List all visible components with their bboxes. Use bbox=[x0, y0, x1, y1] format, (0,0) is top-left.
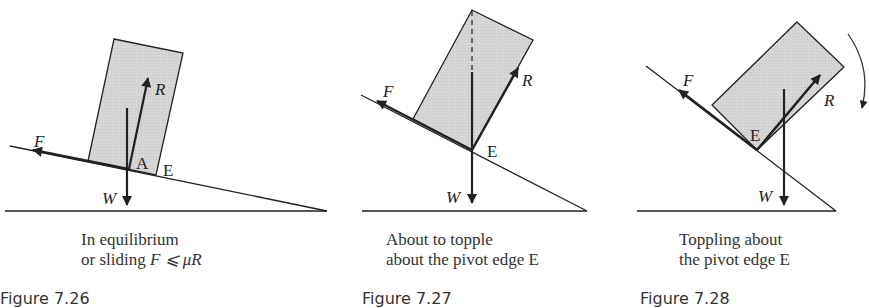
figure-number-7-28: Figure 7.28 bbox=[640, 289, 730, 308]
caption-line-2: or sliding F ⩽ μR bbox=[81, 250, 202, 270]
label-E: E bbox=[487, 142, 497, 161]
label-F: F bbox=[382, 82, 394, 101]
label-R: R bbox=[154, 80, 166, 99]
figure-number-7-27: Figure 7.27 bbox=[362, 289, 452, 308]
figure-number-7-26: Figure 7.26 bbox=[0, 289, 90, 308]
caption-line-1: About to topple bbox=[386, 230, 539, 250]
caption-line-2: the pivot edge E bbox=[679, 250, 790, 270]
label-W: W bbox=[102, 189, 118, 208]
figure-7-26-diagram: F R A E W bbox=[5, 39, 327, 211]
label-R: R bbox=[823, 91, 835, 110]
caption-line-1: In equilibrium bbox=[81, 230, 202, 250]
label-A: A bbox=[136, 154, 149, 173]
label-E: E bbox=[750, 126, 760, 145]
label-W: W bbox=[446, 188, 462, 207]
label-W: W bbox=[758, 187, 774, 206]
label-F: F bbox=[682, 71, 694, 90]
caption-line-1: Toppling about bbox=[679, 230, 790, 250]
rotation-arrow-icon bbox=[848, 34, 865, 108]
caption-figure-7-28: Toppling about the pivot edge E bbox=[679, 230, 790, 270]
label-R: R bbox=[521, 71, 533, 90]
caption-line-2: about the pivot edge E bbox=[386, 250, 539, 270]
caption-figure-7-26: In equilibrium or sliding F ⩽ μR bbox=[81, 230, 202, 270]
figure-7-28-diagram: F R E W bbox=[637, 22, 865, 211]
label-E: E bbox=[163, 161, 173, 180]
caption-prefix: or sliding bbox=[81, 250, 150, 269]
figure-7-27-diagram: F R E W bbox=[361, 10, 587, 211]
caption-figure-7-27: About to topple about the pivot edge E bbox=[386, 230, 539, 270]
caption-math: F ⩽ μR bbox=[150, 250, 202, 269]
label-F: F bbox=[33, 132, 45, 151]
